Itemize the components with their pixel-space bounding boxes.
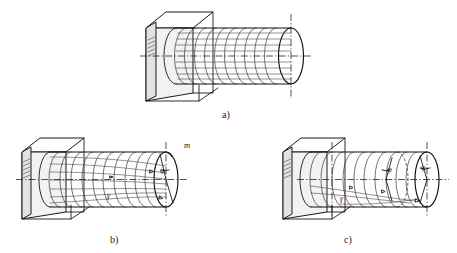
- technical-diagram-svg: a): [0, 0, 457, 253]
- caption-b: b): [110, 234, 118, 246]
- label-phi-end-c: φ: [421, 162, 426, 172]
- panel-c: φ φ γ c): [283, 138, 449, 246]
- caption-a: a): [222, 109, 230, 121]
- caption-c: c): [344, 234, 352, 246]
- twist-angle-b: [160, 152, 173, 203]
- shear-markers-c: [350, 186, 419, 202]
- label-phi-mid-c: φ: [387, 164, 392, 174]
- panel-a: a): [140, 12, 311, 121]
- label-m: m: [184, 140, 190, 150]
- wall-bracket-a: [146, 12, 218, 101]
- figure-root: a): [0, 0, 457, 253]
- label-phi-b: φ: [160, 165, 165, 175]
- panel-b: m φ γ b): [16, 138, 190, 246]
- label-gamma-c: γ: [340, 194, 344, 203]
